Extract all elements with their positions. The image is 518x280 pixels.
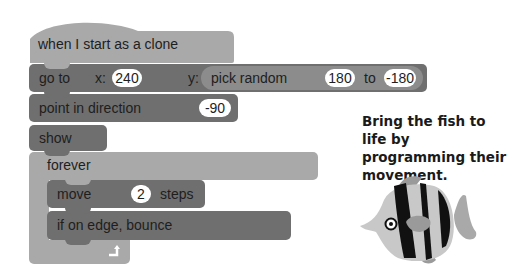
pick-random-label: pick random — [211, 70, 287, 86]
to-label: to — [364, 70, 376, 86]
forever-block-side — [29, 176, 49, 242]
random-to-input[interactable]: -180 — [384, 69, 416, 87]
block-notch — [44, 63, 70, 69]
forever-label: forever — [47, 157, 91, 173]
loop-arrow-icon — [107, 244, 121, 258]
block-notch — [65, 179, 91, 185]
direction-input[interactable]: -90 — [199, 99, 231, 117]
point-in-direction-block[interactable]: point in direction -90 — [29, 94, 238, 122]
go-to-xy-block[interactable]: go to x: 240 y: pick random 180 to -180 — [29, 64, 427, 92]
block-notch — [65, 208, 91, 214]
show-label: show — [39, 130, 72, 146]
hat-block-label: when I start as a clone — [38, 36, 178, 52]
x-label: x: — [95, 70, 106, 86]
forever-block-top: forever — [29, 152, 318, 180]
steps-input[interactable]: 2 — [131, 185, 151, 203]
go-to-label: go to — [39, 70, 70, 86]
striped-fish-icon — [358, 170, 498, 270]
block-notch — [65, 239, 91, 245]
show-block[interactable]: show — [29, 125, 107, 151]
pick-random-reporter[interactable]: pick random 180 to -180 — [201, 66, 423, 90]
move-label: move — [57, 186, 91, 202]
point-in-direction-label: point in direction — [39, 100, 141, 116]
bounce-label: if on edge, bounce — [57, 217, 172, 233]
steps-label: steps — [160, 186, 193, 202]
x-value-input[interactable]: 240 — [112, 69, 142, 87]
random-from-input[interactable]: 180 — [325, 69, 355, 87]
if-on-edge-bounce-block[interactable]: if on edge, bounce — [47, 211, 291, 240]
block-notch — [44, 92, 70, 98]
y-label: y: — [188, 70, 199, 86]
block-notch — [44, 150, 70, 156]
